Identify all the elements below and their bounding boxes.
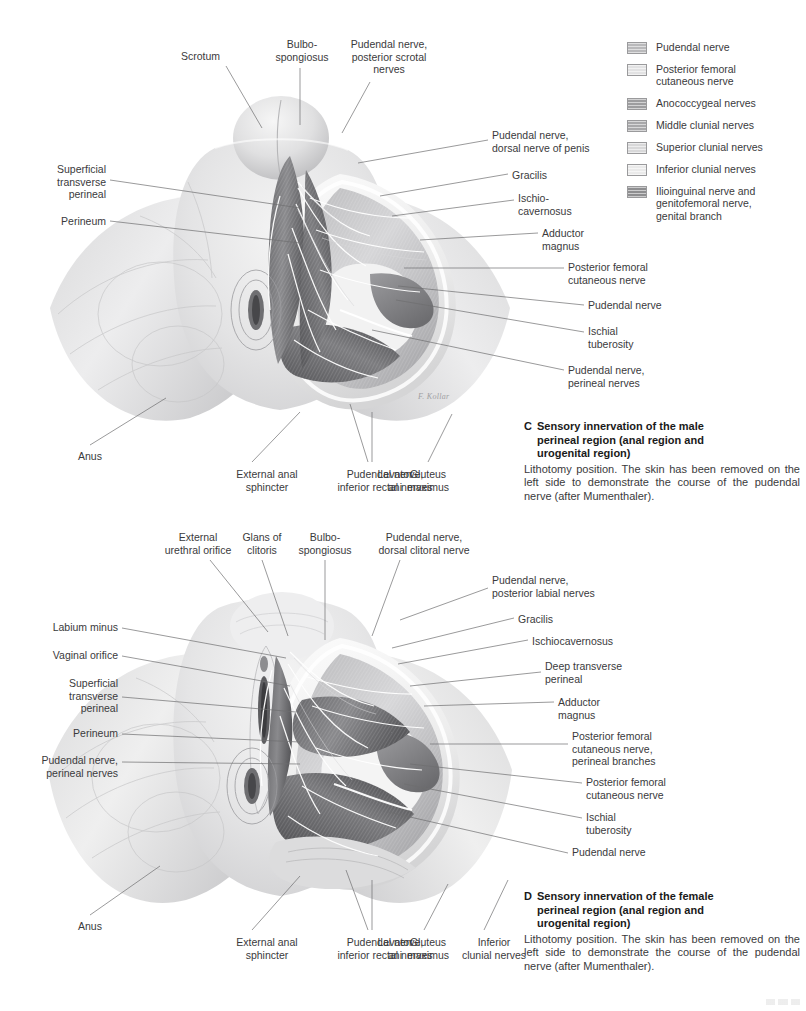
legend-swatch	[627, 186, 647, 198]
legend-item: Middle clunial nerves	[627, 119, 802, 132]
legend-item: Superior clunial nerves	[627, 141, 802, 154]
legend-swatch	[627, 42, 647, 54]
panel-c-label-gluteus-maximus: Gluteus maximus	[388, 468, 468, 493]
legend-label: Ilioinguinal nerve and genitofemoral ner…	[656, 185, 755, 222]
panel-c-label-pudendal-nerve-dorsal-nerve-of-penis: Pudendal nerve, dorsal nerve of penis	[492, 129, 622, 154]
legend-label: Anococcygeal nerves	[656, 97, 756, 109]
legend-item: Inferior clunial nerves	[627, 163, 802, 176]
panel-d-label-pudendal-nerve-perineal-nerves: Pudendal nerve, perineal nerves	[6, 754, 118, 779]
panel-c-caption-body: Lithotomy position. The skin has been re…	[524, 463, 800, 504]
legend-swatch	[627, 64, 647, 76]
panel-c-letter: C	[524, 420, 537, 461]
panel-c-label-superficial-transverse-perineal: Superficial transverse perineal	[22, 163, 106, 201]
legend-item: Posterior femoral cutaneous nerve	[627, 63, 802, 88]
panel-d-label-superficial-transverse-perineal: Superficial transverse perineal	[22, 677, 118, 715]
panel-d-caption-body: Lithotomy position. The skin has been re…	[524, 933, 800, 974]
panel-c-label-pudendal-nerve-perineal-nerves: Pudendal nerve, perineal nerves	[568, 364, 688, 389]
panel-d-label-posterior-femoral-cutaneous-nerve-perineal-branches: Posterior femoral cutaneous nerve, perin…	[572, 730, 694, 768]
panel-d-label-pudendal-nerve-dorsal-clitoral-nerve: Pudendal nerve, dorsal clitoral nerve	[360, 531, 488, 556]
legend-swatch	[627, 164, 647, 176]
panel-c-label-gracilis: Gracilis	[512, 169, 592, 182]
legend-label: Middle clunial nerves	[656, 119, 754, 131]
panel-d-label-perineum: Perineum	[22, 727, 118, 740]
legend-label: Inferior clunial nerves	[656, 163, 756, 175]
panel-d-letter: D	[524, 890, 537, 931]
panel-c-label-posterior-femoral-cutaneous-nerve: Posterior femoral cutaneous nerve	[568, 261, 688, 286]
panel-c-label-adductor-magnus: Adductor magnus	[542, 227, 622, 252]
legend-swatch	[627, 142, 647, 154]
panel-c-label-ischial-tuberosity: Ischial tuberosity	[588, 325, 678, 350]
panel-c-label-external-anal-sphincter: External anal sphincter	[222, 468, 312, 493]
panel-c-label-scrotum: Scrotum	[140, 50, 220, 63]
legend-swatch	[627, 120, 647, 132]
panel-d-label-gracilis: Gracilis	[518, 613, 598, 626]
panel-d-label-anus: Anus	[67, 920, 113, 933]
panel-c-label-pudendal-nerve-posterior-scrotal-nerves: Pudendal nerve, posterior scrotal nerves	[338, 38, 440, 76]
page-footer-mark	[766, 999, 800, 1005]
male-perineum-artwork	[40, 78, 520, 423]
panel-d-label-glans-of-clitoris: Glans of clitoris	[228, 531, 296, 556]
panel-c-label-anus: Anus	[67, 450, 113, 463]
panel-d-label-external-anal-sphincter: External anal sphincter	[222, 936, 312, 961]
legend-swatch	[627, 98, 647, 110]
panel-c-label-ischiocavernosus: Ischio- cavernosus	[518, 192, 600, 217]
panel-d-label-pudendal-nerve: Pudendal nerve	[572, 846, 682, 859]
panel-d-label-pudendal-nerve-posterior-labial-nerves: Pudendal nerve, posterior labial nerves	[492, 574, 628, 599]
legend-item: Ilioinguinal nerve and genitofemoral ner…	[627, 185, 802, 222]
legend-label: Superior clunial nerves	[656, 141, 763, 153]
panel-c-label-perineum: Perineum	[22, 215, 106, 228]
legend-label: Pudendal nerve	[656, 41, 730, 53]
panel-d-label-labium-minus: Labium minus	[22, 621, 118, 634]
nerve-legend: Pudendal nervePosterior femoral cutaneou…	[627, 41, 802, 231]
figure-page: Pudendal nervePosterior femoral cutaneou…	[0, 0, 806, 1011]
panel-c-caption-title: C Sensory innervation of the male perine…	[524, 420, 800, 461]
artist-signature: F. Kollar	[418, 392, 449, 401]
legend-label: Posterior femoral cutaneous nerve	[656, 63, 736, 88]
panel-d-caption: D Sensory innervation of the female peri…	[524, 890, 800, 974]
panel-c-illustration: F. Kollar	[40, 78, 520, 423]
panel-d-label-deep-transverse-perineal: Deep transverse perineal	[545, 660, 657, 685]
panel-c-label-bulbospongiosus: Bulbo- spongiosus	[265, 38, 339, 63]
panel-d-label-ischiocavernosus: Ischiocavernosus	[532, 635, 648, 648]
panel-c-label-pudendal-nerve: Pudendal nerve	[588, 299, 698, 312]
panel-d-label-bulbospongiosus: Bulbo- spongiosus	[288, 531, 362, 556]
panel-d-title-text: Sensory innervation of the female perine…	[537, 890, 714, 931]
panel-c-title-text: Sensory innervation of the male perineal…	[537, 420, 704, 461]
panel-d-label-posterior-femoral-cutaneous-nerve: Posterior femoral cutaneous nerve	[586, 776, 708, 801]
panel-c-caption: C Sensory innervation of the male perine…	[524, 420, 800, 504]
panel-d-label-ischial-tuberosity: Ischial tuberosity	[586, 811, 676, 836]
panel-d-label-adductor-magnus: Adductor magnus	[558, 696, 638, 721]
panel-d-label-vaginal-orifice: Vaginal orifice	[22, 649, 118, 662]
legend-item: Pudendal nerve	[627, 41, 802, 54]
legend-item: Anococcygeal nerves	[627, 97, 802, 110]
panel-d-caption-title: D Sensory innervation of the female peri…	[524, 890, 800, 931]
